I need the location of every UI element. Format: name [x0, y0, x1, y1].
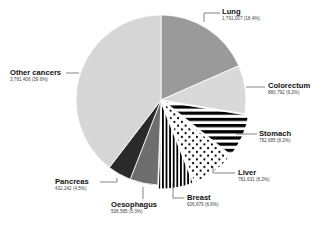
slice-label-colorectum: Colorectum 880,792 (9.2%)	[268, 82, 310, 96]
slice-label-name: Stomach	[259, 130, 291, 138]
slice-label-stomach: Stomach 782,685 (8.2%)	[259, 130, 291, 144]
slice-label-name: Pancreas	[55, 178, 89, 186]
slice-label-value: 3,781,406 (39.6%)	[10, 78, 61, 83]
slice-label-liver: Liver 781,631 (8.2%)	[238, 169, 269, 183]
slice-label-pancreas: Pancreas 432,242 (4.5%)	[55, 178, 89, 192]
slice-label-lung: Lung 1,761,007 (18.4%)	[222, 8, 260, 22]
slice-label-oesophagus: Oesophagus 508,585 (5.3%)	[111, 201, 157, 215]
slice-label-value: 880,792 (9.2%)	[268, 91, 310, 96]
slice-label-value: 508,585 (5.3%)	[111, 210, 157, 215]
slice-label-name: Oesophagus	[111, 201, 157, 209]
pie-slices	[76, 15, 249, 189]
slice-label-other-cancers: Other cancers 3,781,406 (39.6%)	[10, 69, 61, 83]
slice-label-name: Other cancers	[10, 69, 61, 77]
slice-label-name: Liver	[238, 169, 269, 177]
slice-label-name: Breast	[187, 194, 218, 202]
slice-label-value: 432,242 (4.5%)	[55, 187, 89, 192]
slice-label-value: 626,679 (6.6%)	[187, 203, 218, 208]
slice-label-name: Colorectum	[268, 82, 310, 90]
slice-label-value: 782,685 (8.2%)	[259, 139, 291, 144]
slice-label-value: 781,631 (8.2%)	[238, 178, 269, 183]
slice-label-name: Lung	[222, 8, 260, 16]
leader-line	[100, 178, 117, 182]
leader-line	[204, 13, 220, 22]
slice-label-breast: Breast 626,679 (6.6%)	[187, 194, 218, 208]
slice-label-value: 1,761,007 (18.4%)	[222, 17, 260, 22]
pie-chart	[0, 0, 323, 227]
